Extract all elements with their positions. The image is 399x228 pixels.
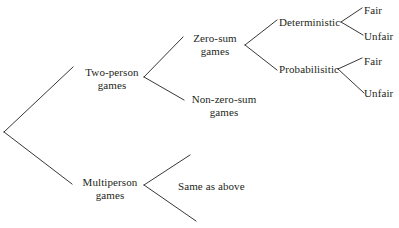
node-fair-deterministic: Fair [364, 4, 398, 17]
node-deterministic: Deterministic [279, 16, 341, 29]
node-non-zero-sum-games-line-2: games [180, 106, 268, 119]
edge-deterministic-to-fair [341, 8, 362, 22]
edge-probabilisitic-to-fair [338, 58, 362, 69]
edge-deterministic-to-unfair [341, 22, 363, 35]
node-fair-deterministic-line-1: Fair [364, 4, 398, 17]
node-unfair-deterministic-line-1: Unfair [364, 30, 399, 43]
node-same-as-above-line-1: Same as above [178, 180, 268, 193]
node-fair-probabilisitic-line-1: Fair [364, 55, 398, 68]
node-zero-sum-games-line-1: Zero-sum [176, 32, 254, 45]
node-multiperson-games-line-2: games [66, 189, 154, 202]
edge-root-to-multiperson [4, 132, 72, 184]
node-multiperson-games-line-1: Multiperson [66, 176, 154, 189]
node-probabilisitic: Probabilisitic [279, 63, 341, 76]
node-two-person-games-line-1: Two-person [68, 66, 156, 79]
node-unfair-probabilisitic: Unfair [364, 87, 399, 100]
node-zero-sum-games: Zero-sum games [176, 32, 254, 57]
node-unfair-deterministic: Unfair [364, 30, 399, 43]
node-multiperson-games: Multiperson games [66, 176, 154, 201]
node-two-person-games: Two-person games [68, 66, 156, 91]
edge-probabilisitic-to-unfair [338, 69, 364, 93]
node-unfair-probabilisitic-line-1: Unfair [364, 87, 399, 100]
node-non-zero-sum-games: Non-zero-sum games [180, 93, 268, 118]
node-zero-sum-games-line-2: games [176, 45, 254, 58]
edge-root-to-two-person [4, 67, 73, 132]
node-fair-probabilisitic: Fair [364, 55, 398, 68]
node-same-as-above: Same as above [178, 180, 268, 193]
node-deterministic-line-1: Deterministic [279, 16, 341, 29]
node-probabilisitic-line-1: Probabilisitic [279, 63, 341, 76]
node-non-zero-sum-games-line-1: Non-zero-sum [180, 93, 268, 106]
node-two-person-games-line-2: games [68, 79, 156, 92]
tree-diagram: Two-person games Multiperson games Zero-… [0, 0, 399, 228]
